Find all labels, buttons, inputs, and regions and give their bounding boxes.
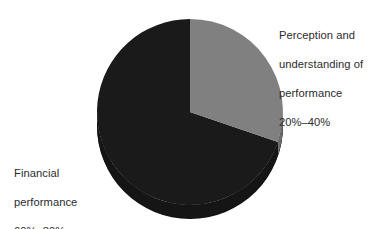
slice-label-perception-line-2: understanding of — [279, 57, 385, 72]
slice-label-financial: Financial performance 60%–80% — [14, 151, 124, 229]
slice-label-perception-line-3: performance — [279, 86, 385, 101]
slice-label-financial-line-1: Financial — [14, 166, 124, 181]
slice-label-perception-value: 20%–40% — [279, 115, 385, 130]
slice-label-financial-line-2: performance — [14, 195, 124, 210]
slice-label-financial-value: 60%–80% — [14, 224, 124, 229]
slice-label-perception: Perception and understanding of performa… — [279, 13, 385, 144]
slice-label-perception-line-1: Perception and — [279, 28, 385, 43]
pie-chart-figure: Perception and understanding of performa… — [0, 0, 388, 229]
